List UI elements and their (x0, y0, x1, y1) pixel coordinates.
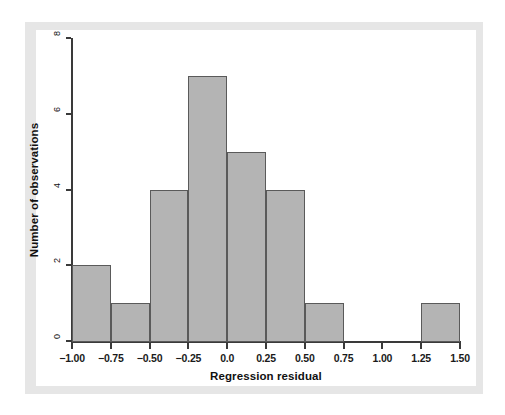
y-tick-mark (66, 189, 71, 191)
histogram-bar (421, 303, 460, 342)
histogram-bar (227, 152, 266, 342)
x-tick-mark (304, 343, 306, 349)
x-axis-title: Regression residual (71, 370, 461, 382)
y-tick-mark (66, 113, 71, 115)
x-tick-mark (343, 343, 345, 349)
histogram-bar (266, 190, 305, 343)
y-tick-mark (66, 340, 71, 342)
x-tick-label: −1.00 (50, 352, 94, 364)
x-tick-mark (381, 343, 383, 349)
x-tick-mark (420, 343, 422, 349)
histogram-bar (305, 303, 344, 342)
y-tick-label: 8 (52, 31, 64, 36)
x-tick-label: 1.25 (399, 352, 443, 364)
histogram-bar (150, 190, 189, 343)
x-tick-label: −0.25 (166, 352, 210, 364)
histogram-bar (111, 303, 150, 342)
histogram-bar (72, 265, 111, 342)
x-tick-mark (226, 343, 228, 349)
x-tick-label: −0.50 (128, 352, 172, 364)
histogram-bar (188, 76, 227, 342)
x-tick-label: 0.50 (283, 352, 327, 364)
x-tick-label: 1.00 (360, 352, 404, 364)
y-tick-mark (66, 264, 71, 266)
y-tick-label: 2 (52, 258, 64, 263)
y-tick-label: 4 (52, 183, 64, 188)
y-tick-mark (66, 37, 71, 39)
x-tick-label: 1.50 (438, 352, 482, 364)
y-axis-title: Number of observations (28, 100, 40, 280)
y-tick-label: 0 (52, 334, 64, 339)
x-tick-label: −0.75 (89, 352, 133, 364)
x-tick-mark (110, 343, 112, 349)
x-tick-mark (265, 343, 267, 349)
x-tick-label: 0.25 (244, 352, 288, 364)
x-tick-mark (459, 343, 461, 349)
x-tick-mark (149, 343, 151, 349)
x-tick-mark (187, 343, 189, 349)
y-tick-label: 6 (52, 107, 64, 112)
histogram-figure: 02468 −1.00−0.75−0.50−0.250.00.250.500.7… (0, 0, 505, 415)
x-tick-label: 0.75 (322, 352, 366, 364)
x-tick-label: 0.0 (205, 352, 249, 364)
x-tick-mark (71, 343, 73, 349)
